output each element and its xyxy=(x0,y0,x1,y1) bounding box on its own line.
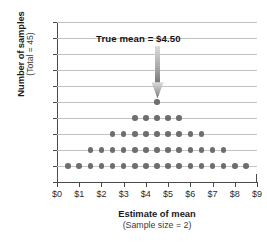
x-tick-mark xyxy=(57,182,58,187)
data-point xyxy=(121,163,127,169)
data-point xyxy=(143,163,149,169)
y-tick-mark xyxy=(53,22,57,23)
data-point xyxy=(143,147,149,153)
x-axis-title-main: Estimate of mean xyxy=(57,209,257,220)
x-axis-title: Estimate of mean (Sample size = 2) xyxy=(57,209,257,230)
x-tick-label: $9 xyxy=(245,189,267,199)
data-point xyxy=(99,147,105,153)
x-axis-title-sub: (Sample size = 2) xyxy=(57,220,257,230)
data-point xyxy=(132,163,138,169)
data-point xyxy=(210,147,216,153)
data-point xyxy=(143,131,149,137)
data-point xyxy=(176,163,182,169)
x-tick-label: $8 xyxy=(223,189,247,199)
plot-area: 012345678910 $0$1$2$3$4$5$6$7$8$9 xyxy=(57,22,257,182)
y-tick-mark xyxy=(53,134,57,135)
y-tick-mark xyxy=(53,38,57,39)
data-point xyxy=(88,147,94,153)
y-tick-mark xyxy=(53,102,57,103)
y-tick-mark xyxy=(53,166,57,167)
data-point xyxy=(143,115,149,121)
data-point xyxy=(176,131,182,137)
y-tick-mark xyxy=(53,150,57,151)
x-tick-mark xyxy=(257,182,258,187)
data-point xyxy=(132,131,138,137)
data-point xyxy=(88,163,94,169)
x-tick-label: $0 xyxy=(45,189,69,199)
data-point xyxy=(188,163,194,169)
data-point xyxy=(165,131,171,137)
data-point xyxy=(65,163,71,169)
y-tick-mark xyxy=(53,54,57,55)
x-tick-label: $1 xyxy=(67,189,91,199)
gridline xyxy=(57,22,257,23)
data-point xyxy=(121,131,127,137)
x-axis-line xyxy=(57,182,257,183)
x-tick-label: $2 xyxy=(89,189,113,199)
x-tick-mark xyxy=(235,182,236,187)
y-axis-title: Number of samples (Total = 45) xyxy=(16,0,44,120)
data-point xyxy=(132,115,138,121)
data-point xyxy=(176,147,182,153)
data-point xyxy=(110,163,116,169)
data-point xyxy=(165,163,171,169)
true-mean-annotation-label: True mean = $4.50 xyxy=(96,33,181,44)
y-tick-mark xyxy=(53,70,57,71)
x-tick-label: $6 xyxy=(178,189,202,199)
data-point xyxy=(176,115,182,121)
x-tick-mark xyxy=(79,182,80,187)
data-point xyxy=(188,147,194,153)
data-point xyxy=(110,147,116,153)
data-point xyxy=(243,163,249,169)
data-point xyxy=(110,131,116,137)
y-axis-title-sub: (Total = 45) xyxy=(26,0,35,120)
data-point xyxy=(232,163,238,169)
x-tick-mark xyxy=(213,182,214,187)
x-tick-mark xyxy=(124,182,125,187)
data-point xyxy=(154,147,160,153)
x-tick-mark xyxy=(168,182,169,187)
x-axis-right-cap xyxy=(256,174,257,182)
data-point xyxy=(210,163,216,169)
x-tick-label: $5 xyxy=(156,189,180,199)
x-tick-label: $4 xyxy=(134,189,158,199)
x-tick-mark xyxy=(101,182,102,187)
data-point xyxy=(121,147,127,153)
data-point xyxy=(154,131,160,137)
data-point xyxy=(165,115,171,121)
data-point xyxy=(188,131,194,137)
x-tick-label: $7 xyxy=(201,189,225,199)
data-point xyxy=(99,163,105,169)
y-tick-mark xyxy=(53,118,57,119)
true-mean-arrow-icon xyxy=(151,46,164,99)
data-point xyxy=(221,147,227,153)
y-tick-mark xyxy=(53,86,57,87)
data-point xyxy=(165,147,171,153)
data-point xyxy=(132,147,138,153)
data-point xyxy=(199,147,205,153)
data-point xyxy=(154,99,160,105)
data-point xyxy=(76,163,82,169)
x-tick-mark xyxy=(146,182,147,187)
x-tick-label: $3 xyxy=(112,189,136,199)
dot-plot-chart: Number of samples (Total = 45) 012345678… xyxy=(0,0,267,244)
x-tick-mark xyxy=(190,182,191,187)
data-point xyxy=(221,163,227,169)
data-point xyxy=(199,163,205,169)
data-point xyxy=(154,115,160,121)
data-point xyxy=(199,131,205,137)
data-point xyxy=(154,163,160,169)
